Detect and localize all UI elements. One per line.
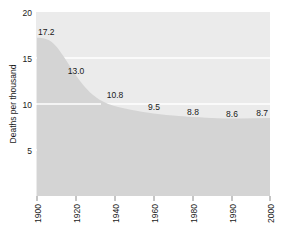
y-tick-label-15: 15 [23, 54, 33, 64]
y-axis-title: Deaths per thousand [8, 64, 18, 143]
death-rate-area-chart: 20 15 10 5 1900 1920 1940 1960 1980 1990… [0, 0, 282, 236]
y-tick-label-5: 5 [27, 146, 32, 156]
y-tick-label-10: 10 [23, 100, 33, 110]
data-label-2000: 8.7 [256, 108, 268, 118]
x-tick-label-2000: 2000 [266, 204, 276, 223]
y-tick-label-20: 20 [23, 8, 33, 18]
x-tick-label-1960: 1960 [150, 204, 160, 223]
data-label-1980: 8.8 [187, 107, 199, 117]
data-label-1900: 17.2 [38, 27, 55, 37]
x-tick-label-1920: 1920 [72, 204, 82, 223]
x-tick-label-1980: 1980 [189, 204, 199, 223]
chart-canvas: 20 15 10 5 1900 1920 1940 1960 1980 1990… [0, 0, 282, 236]
x-tick-label-1940: 1940 [111, 204, 121, 223]
x-tick-label-1900: 1900 [33, 204, 43, 223]
data-label-1940: 10.8 [107, 90, 124, 100]
data-label-1990: 8.6 [226, 109, 238, 119]
x-tick-label-1990: 1990 [228, 204, 238, 223]
data-label-1920: 13.0 [68, 66, 85, 76]
data-label-1960: 9.5 [148, 102, 160, 112]
